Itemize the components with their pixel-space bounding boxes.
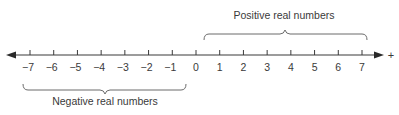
tick-label: −4 [93, 62, 105, 73]
negative-brace [23, 84, 186, 94]
tick-label: −5 [69, 62, 81, 73]
tick-label: −6 [46, 62, 58, 73]
tick-label: 0 [193, 62, 199, 73]
tick-label: 3 [264, 62, 270, 73]
tick-label: 5 [312, 62, 318, 73]
tick-label: 2 [241, 62, 247, 73]
right-arrowhead [374, 52, 384, 59]
tick-label: 4 [288, 62, 294, 73]
tick-label: −7 [22, 62, 34, 73]
tick-label: 6 [335, 62, 341, 73]
ticks [30, 50, 362, 55]
tick-label: 7 [359, 62, 365, 73]
negative-caption: Negative real numbers [52, 96, 158, 107]
tick-label: 1 [217, 62, 223, 73]
left-arrowhead [6, 52, 16, 59]
tick-label: −2 [141, 62, 153, 73]
positive-caption: Positive real numbers [234, 10, 335, 21]
tick-label: −1 [164, 62, 176, 73]
tick-label: −3 [117, 62, 129, 73]
positive-direction-symbol: + [388, 50, 394, 61]
positive-brace [204, 30, 367, 40]
